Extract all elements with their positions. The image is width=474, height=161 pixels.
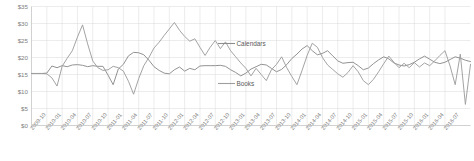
y-axis-tick-label: $30 [18,20,29,27]
x-axis-labels: 2009-102010-012010-042010-072010-102011-… [29,112,460,132]
y-axis-tick-label: $0 [21,122,28,129]
y-axis-tick-label: $35 [18,3,29,10]
legend-label-calendars: Calendars [237,40,266,47]
y-axis-tick-label: $10 [18,88,29,95]
series-line-books [32,22,471,104]
series-line-calendars [32,46,471,85]
y-axis-labels: $0$5$10$15$20$25$30$35 [18,3,29,129]
y-axis-tick-label: $20 [18,54,29,61]
y-axis-tick-label: $5 [21,105,28,112]
data-series-group [32,22,471,104]
y-axis-tick-label: $15 [18,71,29,78]
legend-label-books: Books [237,80,255,87]
chart-canvas: $0$5$10$15$20$25$30$35 2009-102010-01201… [0,0,474,161]
line-chart: $0$5$10$15$20$25$30$35 2009-102010-01201… [0,0,474,161]
y-axis-tick-label: $25 [18,37,29,44]
